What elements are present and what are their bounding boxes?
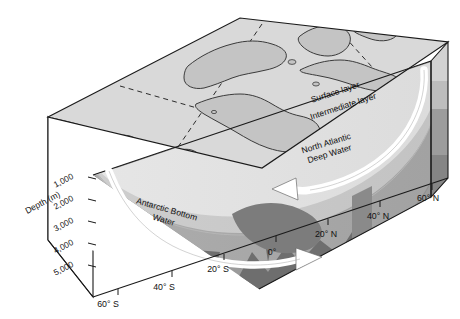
lat-tick-0: 0°: [268, 247, 276, 257]
lat-tick-20s: 20° S: [207, 264, 229, 274]
island-minor-1: [211, 110, 216, 113]
lat-tick-40n: 40° N: [367, 211, 389, 221]
lat-tick-60n: 60° N: [417, 193, 439, 203]
diagram-canvas: Surface layer Intermediate layer North A…: [0, 0, 460, 319]
lat-tick-60s: 60° S: [97, 299, 119, 309]
northern-slope-step: [352, 186, 372, 300]
island-british-isles: [313, 82, 320, 86]
island-iceland: [288, 60, 296, 65]
ocean-circulation-diagram: Surface layer Intermediate layer North A…: [0, 0, 460, 319]
lat-tick-40s: 40° S: [153, 282, 175, 292]
lat-tick-20n: 20° N: [315, 229, 337, 239]
